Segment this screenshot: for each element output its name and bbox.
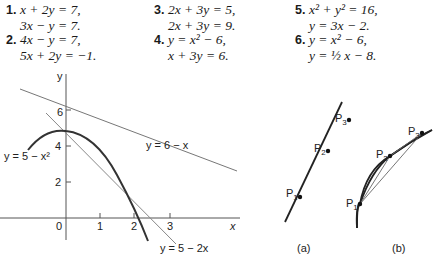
parabola-y-5-minus-x-squared [28, 131, 148, 241]
point-p3-b [420, 131, 424, 135]
figure-graph: y x 0 1 2 3 2 4 6 y = 6 − x y = 5 − 2x y… [0, 0, 437, 270]
label-p3-b: P3 [408, 125, 420, 140]
point-p3-a [347, 118, 351, 122]
y-tick-label-6: 6 [57, 106, 63, 118]
label-parabola: y = 5 − x² [4, 150, 50, 162]
chord-p1-p2 [360, 156, 390, 204]
x-tick-label-1: 1 [97, 220, 103, 232]
label-p3-a: P3 [335, 112, 347, 127]
y-tick-label-4: 4 [55, 140, 61, 152]
caption-b: (b) [392, 242, 405, 254]
x-tick-label-2: 2 [131, 220, 137, 232]
label-p1-b: P1 [346, 197, 358, 212]
caption-a: (a) [297, 242, 310, 254]
point-p2-b [388, 154, 392, 158]
point-p2-a [326, 149, 330, 153]
origin-label: 0 [56, 220, 62, 232]
chord-p1-p3 [360, 133, 422, 204]
figure-b-curve [357, 130, 432, 228]
x-axis-label: x [229, 220, 236, 232]
y-axis-label: y [57, 70, 63, 82]
y-tick-label-2: 2 [55, 176, 61, 188]
line-y-6-minus-x [20, 89, 237, 171]
label-line-5-minus-2x: y = 5 − 2x [160, 242, 209, 254]
label-p1-a: P1 [286, 187, 298, 202]
label-p2-a: P2 [314, 142, 326, 157]
x-tick-label-3: 3 [167, 220, 173, 232]
figure-a-line [285, 102, 342, 222]
label-line-6-minus-x: y = 6 − x [146, 139, 189, 151]
point-p1-a [298, 195, 302, 199]
point-p1-b [358, 202, 362, 206]
